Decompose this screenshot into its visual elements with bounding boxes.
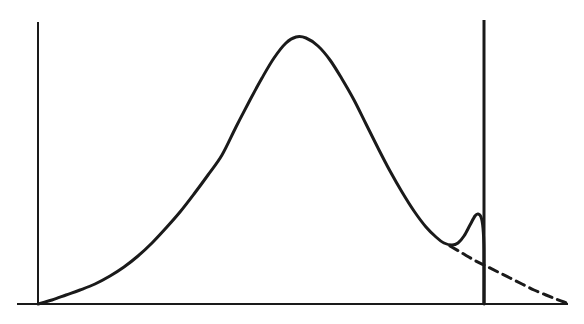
plot-background: [0, 0, 584, 324]
distribution-plot: [0, 0, 584, 324]
figure-container: [0, 0, 584, 324]
